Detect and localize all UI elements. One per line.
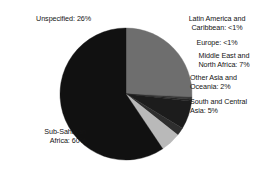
slice-label-south-central-asia: South and Central Asia: 5% (190, 97, 268, 115)
slice-label-europe: Europe: <1% (168, 38, 266, 47)
slice-label-other-asia-oceania: Other Asia and Oceania: 2% (190, 73, 266, 91)
slice-label-latin-america: Latin America and Caribbean: <1% (168, 14, 266, 32)
slice-label-sub-saharan-africa: Sub-Saharan Africa: 60% (8, 127, 86, 145)
slice-label-unspecified: Unspecified: 26% (36, 14, 132, 23)
slice-label-middle-east: Middle East and North Africa: 7% (182, 51, 266, 69)
pie-chart-figure: Unspecified: 26% Latin America and Carib… (0, 0, 268, 181)
